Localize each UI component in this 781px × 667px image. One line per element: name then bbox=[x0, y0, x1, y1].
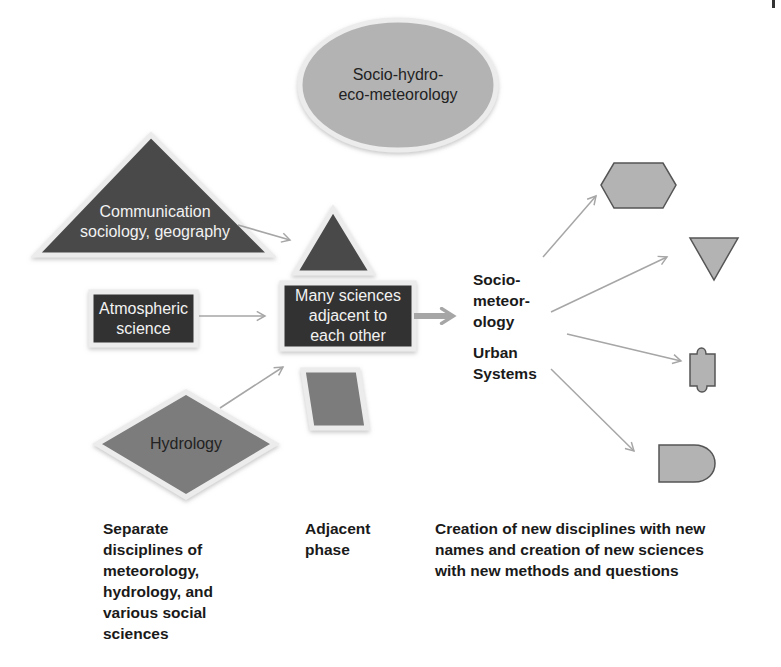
corner-mark bbox=[772, 0, 775, 8]
hexagon-shape bbox=[601, 163, 676, 208]
caption-separate-disciplines: Separate disciplines of meteorology, hyd… bbox=[103, 518, 213, 644]
ellipse-label: Socio-hydro- eco-meteorology bbox=[300, 62, 496, 108]
socio-meteorology-label: Socio- meteor- ology bbox=[473, 269, 530, 332]
atmospheric-label: Atmospheric science bbox=[91, 292, 196, 345]
center-box-label: Many sciences adjacent to each other bbox=[282, 283, 414, 349]
urban-systems-label: Urban Systems bbox=[473, 342, 537, 384]
caption-new-disciplines: Creation of new disciplines with new nam… bbox=[435, 518, 705, 581]
center-parallelogram bbox=[303, 370, 367, 428]
communication-label: Communication sociology, geography bbox=[60, 200, 250, 244]
hydrology-label: Hydrology bbox=[120, 432, 252, 456]
center-triangle bbox=[295, 209, 372, 273]
punched-tape-shape bbox=[690, 348, 715, 392]
arrow-to-delay bbox=[551, 369, 634, 451]
inverted-triangle-shape bbox=[690, 238, 738, 280]
arrow-to-hexagon bbox=[543, 196, 596, 257]
arrow-to-tape bbox=[567, 334, 681, 361]
delay-shape bbox=[659, 445, 715, 482]
arrow-to-inverted-triangle bbox=[551, 257, 667, 312]
caption-adjacent-phase: Adjacent phase bbox=[305, 518, 370, 560]
arrow-hydrology-to-center bbox=[220, 367, 283, 408]
